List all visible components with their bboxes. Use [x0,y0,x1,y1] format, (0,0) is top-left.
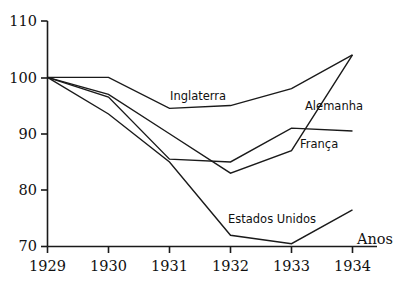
y-tick-label-110: 110 [9,13,37,29]
x-tick-label-1930: 1930 [90,258,127,274]
y-tick-label-100: 100 [9,70,37,86]
line-chart: 110 100 90 80 70 1929 1930 1931 1932 193… [0,0,407,284]
x-tick-label-1933: 1933 [273,258,310,274]
x-tick-label-1931: 1931 [151,258,188,274]
series-label-franca: França [300,137,338,151]
y-tick-label-70: 70 [19,238,37,254]
y-tick-label-90: 90 [19,126,37,142]
series-line-alemanha [48,55,353,173]
x-tick-label-1932: 1932 [212,258,249,274]
y-tick-label-80: 80 [19,182,37,198]
x-axis-name: Anos [356,231,393,247]
x-tick-label-1929: 1929 [29,258,66,274]
series-label-alemanha: Alemanha [305,99,363,113]
series-label-inglaterra: Inglaterra [170,89,226,103]
chart-canvas: 110 100 90 80 70 1929 1930 1931 1932 193… [0,0,407,284]
x-tick-label-1934: 1934 [334,258,371,274]
series-label-estados-unidos: Estados Unidos [228,212,316,226]
